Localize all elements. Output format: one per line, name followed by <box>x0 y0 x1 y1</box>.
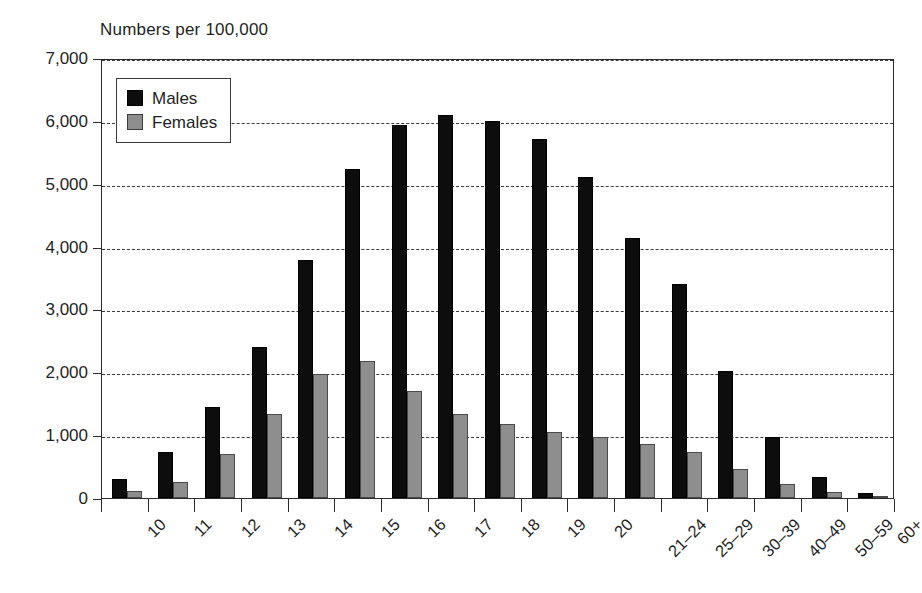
chart-legend: MalesFemales <box>116 78 231 143</box>
x-tick-label: 19 <box>564 515 590 541</box>
bar-male-15 <box>345 169 360 498</box>
bar-male-25–29 <box>672 284 687 498</box>
x-tick-mark <box>894 499 895 512</box>
bar-female-10 <box>127 491 142 498</box>
x-tick-label: 17 <box>470 515 496 541</box>
chart-figure: Numbers per 100,000 01,0002,0003,0004,00… <box>0 0 922 593</box>
legend-item-male: Males <box>127 86 217 110</box>
bar-male-13 <box>252 347 267 498</box>
bar-male-18 <box>485 121 500 498</box>
bar-male-60+ <box>858 493 873 498</box>
bar-female-11 <box>173 482 188 498</box>
bar-female-12 <box>220 454 235 498</box>
x-tick-label: 10 <box>144 515 170 541</box>
x-tick-label: 50–59 <box>851 515 897 561</box>
x-tick-label: 21–24 <box>665 515 711 561</box>
legend-item-female: Females <box>127 110 217 134</box>
bar-female-20 <box>593 437 608 498</box>
bar-female-17 <box>453 414 468 498</box>
x-axis-labels: 101112131415161718192021–2425–2930–3940–… <box>101 499 894 593</box>
bar-male-17 <box>438 115 453 498</box>
x-tick-label: 40–49 <box>805 515 851 561</box>
bar-female-21–24 <box>640 444 655 498</box>
bar-male-11 <box>158 452 173 498</box>
x-tick-label: 12 <box>237 515 263 541</box>
x-tick-label: 13 <box>284 515 310 541</box>
bar-male-12 <box>205 407 220 498</box>
bar-male-14 <box>298 260 313 498</box>
legend-label: Males <box>152 90 197 107</box>
x-tick-label: 20 <box>610 515 636 541</box>
chart-title: Numbers per 100,000 <box>100 20 268 40</box>
bar-male-40–49 <box>765 437 780 498</box>
bar-female-40–49 <box>780 484 795 498</box>
bar-female-18 <box>500 424 515 498</box>
bar-female-15 <box>360 361 375 498</box>
x-tick-label: 60+ <box>893 515 922 548</box>
x-tick-label: 30–39 <box>758 515 804 561</box>
bar-female-50–59 <box>827 492 842 498</box>
bar-male-50–59 <box>812 477 827 498</box>
bar-female-13 <box>267 414 282 498</box>
bar-male-21–24 <box>625 238 640 498</box>
bar-male-10 <box>112 479 127 498</box>
bar-female-60+ <box>873 496 888 498</box>
bar-male-20 <box>578 177 593 498</box>
x-tick-label: 18 <box>517 515 543 541</box>
bar-male-30–39 <box>718 371 733 498</box>
x-tick-label: 25–29 <box>712 515 758 561</box>
bar-female-16 <box>407 391 422 498</box>
legend-swatch-male-icon <box>127 90 143 106</box>
x-tick-label: 11 <box>190 515 216 541</box>
x-tick-label: 16 <box>424 515 450 541</box>
y-axis-ticks <box>0 59 110 499</box>
bar-male-16 <box>392 125 407 498</box>
x-tick-label: 14 <box>330 515 356 541</box>
bar-female-19 <box>547 432 562 498</box>
bar-female-25–29 <box>687 452 702 498</box>
bar-female-14 <box>313 374 328 498</box>
bar-female-30–39 <box>733 469 748 498</box>
bar-male-19 <box>532 139 547 498</box>
legend-swatch-female-icon <box>127 114 143 130</box>
x-tick-label: 15 <box>377 515 403 541</box>
legend-label: Females <box>152 114 217 131</box>
